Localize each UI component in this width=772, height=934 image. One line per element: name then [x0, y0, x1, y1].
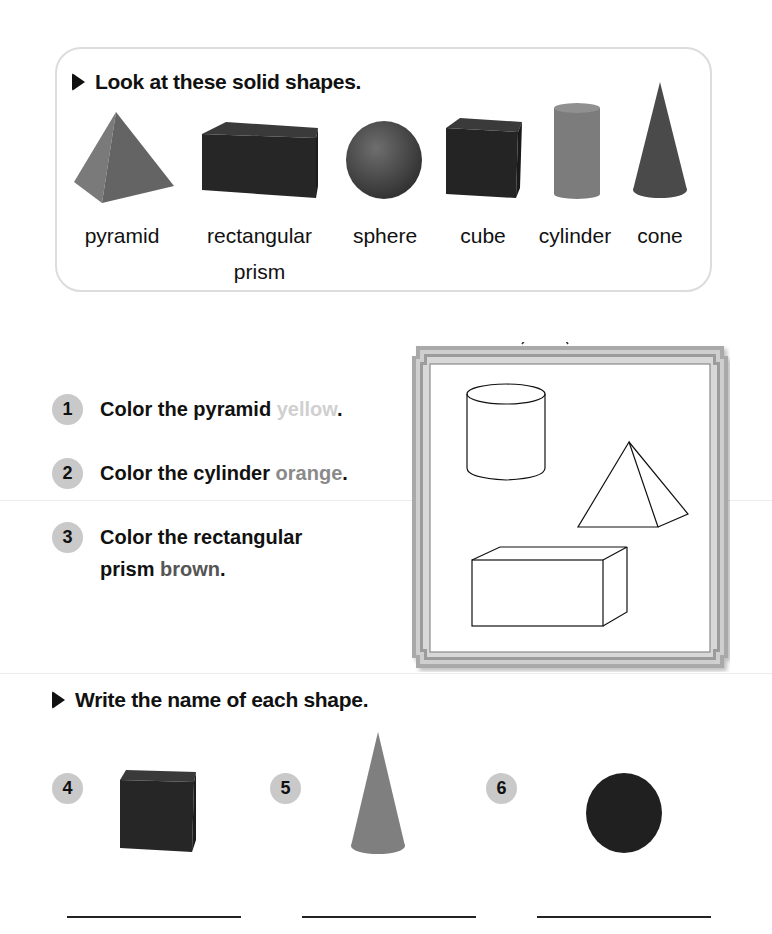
question-number-1: 1	[52, 394, 83, 425]
arrow-bullet-icon	[52, 691, 65, 709]
shape-label-rectangular: rectangular	[192, 224, 327, 248]
color-word-yellow: yellow	[277, 398, 337, 420]
cube-icon	[444, 116, 524, 200]
shape-label-sphere: sphere	[335, 224, 435, 248]
answer-line-5[interactable]	[302, 916, 476, 918]
cone-icon	[348, 730, 408, 856]
cube-icon	[118, 768, 198, 854]
question-number-5: 5	[270, 773, 301, 804]
shape-label-pyramid: pyramid	[72, 224, 172, 248]
question-number-6: 6	[486, 773, 517, 804]
sphere-icon	[344, 120, 424, 200]
rectangular-prism-icon	[200, 120, 320, 198]
section-divider	[0, 673, 772, 674]
instruction-3: Color the rectangular prism brown.	[100, 521, 302, 585]
shape-label-prism: prism	[192, 260, 327, 284]
sphere-icon	[584, 771, 664, 855]
pyramid-icon	[72, 110, 176, 205]
look-heading-text: Look at these solid shapes.	[95, 70, 361, 94]
color-word-brown: brown	[160, 558, 220, 580]
instruction-2: Color the cylinder orange.	[100, 457, 348, 489]
question-number-2: 2	[52, 458, 83, 489]
instruction-1: Color the pyramid yellow.	[100, 393, 343, 425]
color-word-orange: orange	[276, 462, 343, 484]
shape-label-cylinder: cylinder	[530, 224, 620, 248]
write-heading: Write the name of each shape.	[52, 688, 368, 712]
arrow-bullet-icon	[72, 73, 85, 91]
shape-label-cube: cube	[448, 224, 518, 248]
write-heading-text: Write the name of each shape.	[75, 688, 368, 712]
question-number-3: 3	[52, 522, 83, 553]
cylinder-icon	[550, 100, 606, 200]
picture-frame[interactable]	[410, 342, 730, 672]
answer-line-6[interactable]	[537, 916, 711, 918]
question-number-4: 4	[52, 773, 83, 804]
answer-line-4[interactable]	[67, 916, 241, 918]
look-heading: Look at these solid shapes.	[72, 70, 361, 94]
shape-label-cone: cone	[625, 224, 695, 248]
cone-icon	[630, 80, 690, 200]
